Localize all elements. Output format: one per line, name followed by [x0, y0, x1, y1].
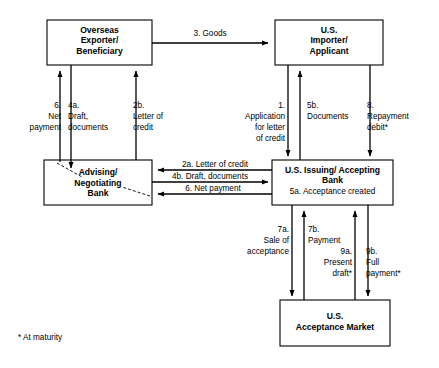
box-issuing-bank-line-1: U.S. Issuing/ Accepting [285, 165, 380, 175]
footnote-at-maturity: * At maturity [18, 333, 63, 342]
label-application-for-lc-4: of credit [256, 134, 286, 143]
label-draft-documents-4b: 4b. Draft, documents [172, 172, 248, 181]
flow-diagram-svg: Overseas Exporter/ Beneficiary U.S. Impo… [0, 0, 439, 368]
label-sale-of-acceptance-2: Sale of [264, 236, 290, 245]
box-us-importer-line-2: Importer/ [310, 35, 348, 45]
label-application-for-lc-3: for letter [255, 123, 285, 132]
box-issuing-bank[interactable]: U.S. Issuing/ Accepting Bank 5a. Accepta… [272, 160, 393, 205]
label-net-payment-6: 6. Net payment [185, 184, 241, 193]
label-payment-7b-1: 7b. [308, 225, 319, 234]
label-repayment-debit-1: 8. [367, 101, 374, 110]
flow-diagram-canvas: Overseas Exporter/ Beneficiary U.S. Impo… [0, 0, 439, 368]
label-sale-of-acceptance-3: acceptance [247, 247, 289, 256]
label-full-payment-2: Full [366, 258, 379, 267]
label-application-for-lc-1: 1. [278, 101, 285, 110]
box-acceptance-market[interactable]: U.S. Acceptance Market [280, 300, 390, 346]
label-letter-of-credit-left-3: credit [133, 123, 154, 132]
box-acceptance-market-line-1: U.S. [327, 311, 344, 321]
box-us-importer-line-1: U.S. [321, 25, 338, 35]
label-sale-of-acceptance-1: 7a. [278, 225, 289, 234]
label-net-payment-left-3: payment [30, 123, 62, 132]
label-repayment-debit-2: Repayment [367, 112, 410, 121]
box-overseas-exporter-line-1: Overseas [80, 25, 119, 35]
label-draft-documents-left-1: 4a. [68, 101, 79, 110]
box-advising-bank-line-1: Advising/ [79, 167, 118, 177]
label-letter-of-credit-left-2: Letter of [133, 112, 164, 121]
label-documents-5b-2: Documents [307, 112, 348, 121]
label-draft-documents-left-3: documents [68, 123, 108, 132]
label-application-for-lc-2: Application [245, 112, 286, 121]
box-issuing-bank-line-2: Bank [322, 175, 343, 185]
label-goods: 3. Goods [193, 29, 226, 38]
box-overseas-exporter-line-2: Exporter/ [81, 35, 119, 45]
box-acceptance-market-line-2: Acceptance Market [296, 322, 374, 332]
label-documents-5b-1: 5b. [307, 101, 318, 110]
box-issuing-bank-subtext: 5a. Acceptance created [290, 187, 376, 196]
label-letter-of-credit-left-1: 2b. [133, 101, 144, 110]
label-draft-documents-left-2: Draft, [68, 112, 88, 121]
box-advising-bank[interactable]: Advising/ Negotiating Bank [44, 160, 152, 205]
label-present-draft-1: 9a. [341, 247, 352, 256]
label-full-payment-3: payment* [366, 269, 401, 278]
box-us-importer[interactable]: U.S. Importer/ Applicant [275, 20, 383, 65]
label-repayment-debit-3: debit* [367, 123, 389, 132]
label-present-draft-2: Present [324, 258, 353, 267]
box-overseas-exporter-line-3: Beneficiary [76, 46, 123, 56]
label-letter-of-credit-2a: 2a. Letter of credit [182, 160, 249, 169]
label-full-payment-1: 9b. [366, 247, 377, 256]
box-overseas-exporter[interactable]: Overseas Exporter/ Beneficiary [47, 20, 152, 65]
label-net-payment-left-1: 6. [54, 101, 61, 110]
label-net-payment-left-2: Net [48, 112, 61, 121]
box-advising-bank-line-2: Negotiating [74, 178, 121, 188]
label-present-draft-3: draft* [332, 269, 352, 278]
box-advising-bank-line-3: Bank [87, 188, 108, 198]
label-payment-7b-2: Payment [308, 236, 341, 245]
box-us-importer-line-3: Applicant [309, 46, 348, 56]
